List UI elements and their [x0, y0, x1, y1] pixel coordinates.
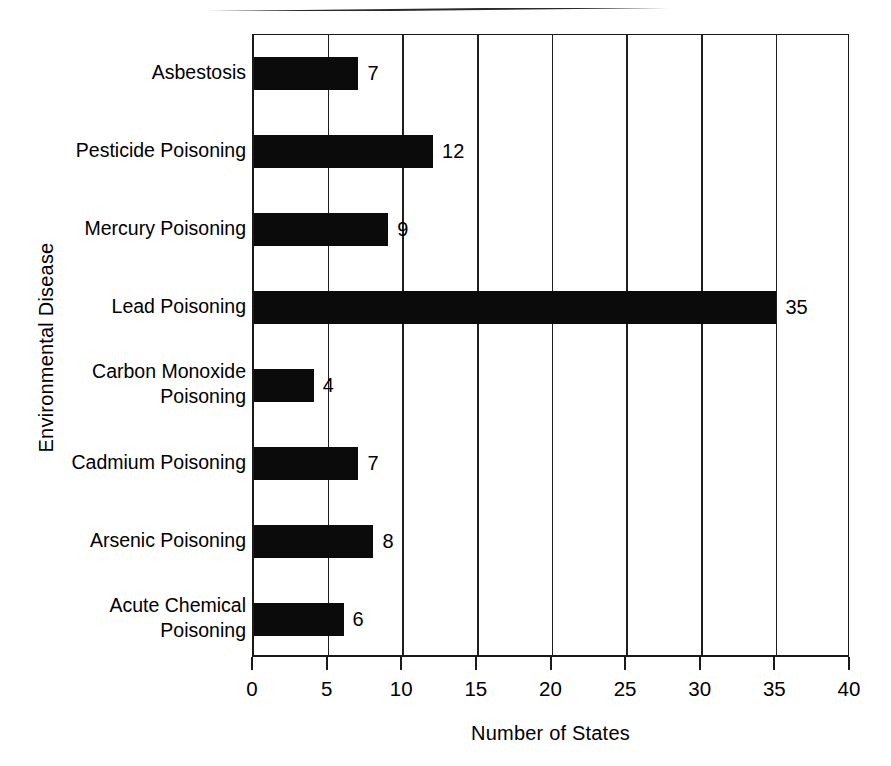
gridline-10 [402, 35, 404, 655]
bar-value-label: 7 [367, 57, 378, 90]
bar [254, 525, 373, 558]
x-tick-mark-35 [773, 657, 775, 670]
bar-chart-figure: Environmental Disease AsbestosisPesticid… [0, 0, 891, 766]
bar [254, 57, 358, 90]
gridline-5 [328, 35, 330, 655]
x-tick-label-10: 10 [371, 676, 431, 702]
x-tick-label-0: 0 [222, 676, 282, 702]
x-tick-label-40: 40 [819, 676, 879, 702]
x-axis-title: Number of States [252, 722, 849, 745]
bar [254, 369, 314, 402]
x-axis-tick-labels: 0510152025303540 [252, 676, 849, 704]
bar [254, 291, 776, 324]
bar [254, 447, 358, 480]
x-tick-mark-40 [848, 657, 850, 670]
category-label: Lead Poisoning [60, 294, 246, 319]
category-label: Arsenic Poisoning [60, 528, 246, 553]
x-tick-mark-0 [251, 657, 253, 670]
category-label: Pesticide Poisoning [60, 138, 246, 163]
bar [254, 603, 344, 636]
x-tick-mark-10 [400, 657, 402, 670]
gridline-35 [776, 35, 778, 655]
x-tick-label-15: 15 [446, 676, 506, 702]
x-tick-label-25: 25 [595, 676, 655, 702]
gridline-20 [552, 35, 554, 655]
bar-value-label: 4 [323, 369, 334, 402]
x-tick-mark-5 [326, 657, 328, 670]
category-label: Carbon Monoxide Poisoning [60, 359, 246, 409]
x-axis-tick-marks [252, 657, 849, 673]
bar-value-label: 7 [367, 447, 378, 480]
gridline-30 [701, 35, 703, 655]
bar-value-label: 9 [397, 213, 408, 246]
x-tick-mark-30 [699, 657, 701, 670]
category-label: Cadmium Poisoning [60, 450, 246, 475]
bar-value-label: 6 [353, 603, 364, 636]
bar-value-label: 12 [442, 135, 464, 168]
y-axis-title: Environmental Disease [35, 138, 58, 558]
gridline-25 [626, 35, 628, 655]
x-tick-label-30: 30 [670, 676, 730, 702]
x-tick-label-20: 20 [521, 676, 581, 702]
x-tick-label-5: 5 [297, 676, 357, 702]
bar-value-label: 35 [785, 291, 807, 324]
category-label: Acute Chemical Poisoning [60, 593, 246, 643]
bar [254, 135, 433, 168]
bar-value-label: 8 [382, 525, 393, 558]
category-label: Asbestosis [60, 60, 246, 85]
x-tick-mark-15 [475, 657, 477, 670]
x-tick-label-35: 35 [744, 676, 804, 702]
x-tick-mark-25 [624, 657, 626, 670]
bar [254, 213, 388, 246]
figure-bottom-caption [162, 754, 882, 766]
category-label-column: AsbestosisPesticide PoisoningMercury Poi… [60, 34, 246, 657]
gridline-15 [477, 35, 479, 655]
plot-area: 7129354786 [252, 34, 849, 657]
category-label: Mercury Poisoning [60, 216, 246, 241]
x-tick-mark-20 [550, 657, 552, 670]
